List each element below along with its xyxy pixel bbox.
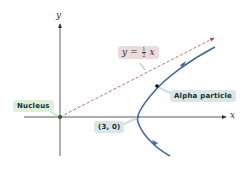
vertex-leader-line [124, 118, 137, 124]
asymptote-equation-label: y = 1 2 x [118, 46, 159, 59]
vertex-label: (3, 0) [94, 121, 124, 133]
alpha-particle-label: Alpha particle [170, 90, 236, 102]
nucleus-point [58, 115, 62, 119]
x-axis-label: x [230, 110, 235, 120]
diagram-canvas [0, 0, 245, 169]
alpha-particle-point [155, 84, 159, 88]
equation-var: x [150, 47, 155, 57]
fraction-denominator: 2 [142, 53, 145, 58]
vertex-point [137, 116, 139, 118]
y-axis-label: y [56, 10, 61, 20]
nucleus-label: Nucleus [13, 100, 54, 112]
equation-leader-line [140, 63, 145, 70]
equation-lhs: y = [122, 47, 138, 57]
equation-fraction: 1 2 [142, 47, 145, 58]
